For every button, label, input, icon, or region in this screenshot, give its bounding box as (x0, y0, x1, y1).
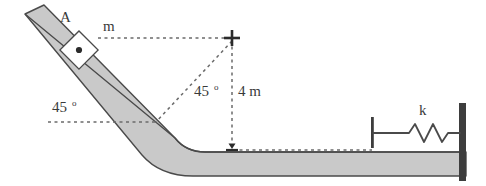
height-label-4m: 4 m (238, 83, 261, 99)
physics-diagram-figure: A m 45 o 45 o 4 m k (0, 0, 486, 186)
apex-angle-label: 45 o (194, 82, 219, 99)
svg-text:45: 45 (52, 99, 67, 115)
spring-constant-label-k: k (419, 102, 427, 118)
svg-text:45: 45 (194, 83, 209, 99)
svg-text:o: o (72, 98, 77, 108)
block-mass-label-m: m (103, 18, 115, 34)
block-center-of-mass-dot (76, 47, 82, 53)
incline-angle-label: 45 o (52, 98, 77, 115)
dotted-line-apex-to-ramp (156, 41, 232, 122)
diagram-canvas: A m 45 o 45 o 4 m k (0, 0, 486, 186)
block-label-A: A (60, 9, 71, 25)
svg-text:o: o (214, 82, 219, 92)
fixed-wall (459, 103, 466, 181)
arrow-marker (226, 144, 238, 151)
cross-marker (224, 30, 240, 46)
coil-spring-k (373, 124, 460, 142)
